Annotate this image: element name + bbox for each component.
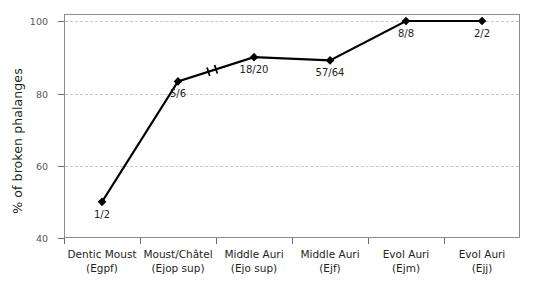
data-point-label-1: 5/6: [170, 88, 186, 99]
data-point-marker-3: [326, 56, 335, 65]
data-point-label-0: 1/2: [94, 209, 110, 220]
data-point-label-2: 18/20: [240, 64, 269, 75]
chart-figure: % of broken phalanges 100 80 60 40 Denti…: [0, 0, 534, 282]
data-point-label-3: 57/64: [316, 67, 345, 78]
data-point-marker-4: [402, 17, 411, 26]
data-point-label-5: 2/2: [474, 28, 490, 39]
data-point-marker-2: [250, 53, 259, 62]
data-point-label-4: 8/8: [398, 28, 414, 39]
data-series-line: [0, 0, 534, 282]
series-markers: [98, 17, 487, 206]
series-polyline: [102, 21, 482, 202]
data-point-marker-5: [478, 17, 487, 26]
